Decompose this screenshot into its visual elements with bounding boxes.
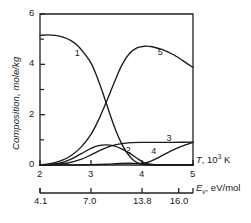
x-axis-unit-tail: K [221,154,230,165]
secondary-axis-unit: , eV/mol [206,182,241,193]
curve-label-5: 5 [158,48,163,57]
secondary-tick-label-0: 4.1 [34,196,47,206]
y-axis-title: Composition, mole/kg [11,57,21,150]
y-tick-label-4: 4 [29,58,34,68]
x-axis-unit: , 10 [202,154,218,165]
x-tick-label-5: 5 [190,169,195,179]
curve-3 [40,142,193,165]
x-tick-label-3: 3 [88,169,93,179]
secondary-tick-label-1: 7.0 [83,196,96,206]
y-tick-label-6: 6 [29,8,34,18]
curve-1 [40,35,193,165]
curve-label-4: 4 [151,147,156,156]
secondary-tick-label-2: 13.8 [133,196,152,206]
curve-label-3: 3 [167,134,172,143]
curve-label-2: 2 [126,146,131,155]
secondary-axis-line [40,188,193,193]
y-tick-label-2: 2 [29,109,34,119]
x-tick-label-2: 2 [37,169,42,179]
curve-2 [40,145,193,165]
curve-label-1: 1 [75,49,80,58]
data-curves [40,35,193,165]
y-tick-label-0: 0 [29,159,34,169]
x-tick-label-4: 4 [139,169,144,179]
x-axis-title: T, 103 K [196,154,230,165]
secondary-axis-title: Ev, eV/mol [196,183,240,195]
secondary-tick-label-3: 16.0 [170,196,189,206]
figure-container: Composition, mole/kg 0 2 4 6 2 3 4 5 T, … [0,0,251,223]
